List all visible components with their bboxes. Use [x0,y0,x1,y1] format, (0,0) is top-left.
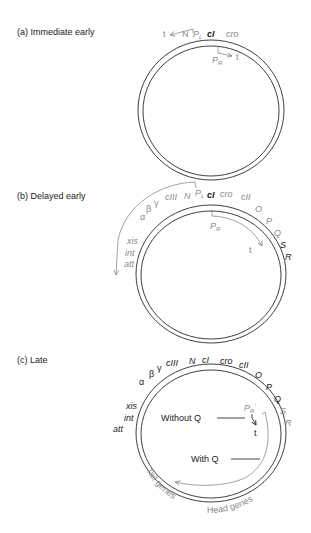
gene-int: int [124,413,134,423]
gene-O: O [255,370,262,380]
gene-beta: β [146,204,151,214]
genome-outer-ring [138,40,284,180]
panel-c-late: (c) Late cIII N cI cro cII O P Q S R γ β… [17,355,292,515]
gene-cI: cI [207,190,215,200]
site-att: att [113,424,124,434]
gene-xis: xis [126,236,138,246]
gene-N: N [182,29,189,39]
gene-R: R [285,418,292,428]
label-tail-genes: Tail genes [144,466,178,501]
gene-cI: cI [207,29,215,39]
gene-cII: cII [239,360,249,370]
gene-beta: β [149,369,154,379]
gene-cIII: cIII [165,192,178,202]
gene-xis: xis [125,401,137,411]
promoter-PR: PR [210,221,221,232]
gene-gamma: γ [157,363,162,373]
panel-b-delayed-early: (b) Delayed early cIII N PL cI cro cII O… [17,182,292,343]
panel-a-title: (a) Immediate early [17,27,95,37]
gene-gamma: γ [154,198,159,208]
gene-S: S [280,240,286,250]
genome-inner-ring [141,370,281,498]
gene-cIII: cIII [166,358,179,368]
genome-inner-ring [143,46,279,176]
panel-b-title: (b) Delayed early [17,191,86,201]
gene-cro: cro [226,29,239,39]
gene-alpha: α [139,377,144,387]
gene-cro: cro [220,189,233,199]
label-with-q: With Q [191,454,219,464]
terminator-t-right: t [236,52,239,62]
gene-int: int [125,248,135,258]
gene-S: S [280,406,286,416]
gene-cII: cII [241,192,251,202]
gene-P: P [266,382,272,392]
gene-R: R [285,252,292,262]
gene-N: N [184,191,191,201]
terminator-t: t [249,245,252,255]
label-without-q: Without Q [161,413,201,423]
gene-P: P [266,216,272,226]
label-head-genes: Head genes [207,493,255,515]
promoter-PR-prime: PR' [244,403,256,414]
without-q-short-transcript-arrow [252,414,256,425]
gene-cI: cI [202,355,210,365]
panel-a-immediate-early: (a) Immediate early t N PL cI cro PR t [17,27,284,180]
site-att: att [124,259,135,269]
terminator-t: t [254,428,257,438]
lambda-phage-transcription-diagram: (a) Immediate early t N PL cI cro PR t (… [0,0,311,533]
terminator-t-left: t [163,29,166,39]
gene-Q: Q [274,394,281,404]
gene-N: N [189,356,196,366]
promoter-PL: PL [193,29,202,40]
gene-O: O [255,204,262,214]
promoter-PL: PL [195,188,204,199]
gene-Q: Q [274,228,281,238]
gene-cro: cro [220,356,233,366]
gene-alpha: α [140,212,145,222]
promoter-PR: PR [212,55,223,66]
panel-c-title: (c) Late [17,355,48,365]
with-q-late-transcript-arrow [175,412,268,485]
